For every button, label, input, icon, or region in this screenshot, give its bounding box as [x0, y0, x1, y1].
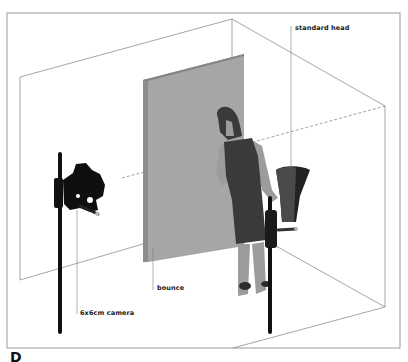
studio-lighting-diagram [0, 0, 408, 362]
figure-letter: D [10, 350, 22, 362]
label-camera: 6x6cm camera [80, 309, 134, 317]
label-standard-head: standard head [295, 24, 350, 32]
label-bounce: bounce [157, 284, 184, 292]
camera-on-stand [54, 152, 105, 334]
